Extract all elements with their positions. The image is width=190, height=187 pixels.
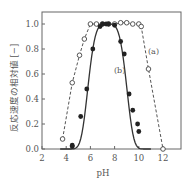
open-circle-point	[70, 80, 75, 85]
filled-circle-point	[122, 52, 127, 57]
open-circle-point	[82, 37, 87, 42]
curves	[60, 23, 163, 149]
y-tick-label: 0.8	[25, 44, 39, 54]
plot-border	[42, 12, 181, 149]
open-circle-point	[60, 137, 65, 142]
x-tick-label: 4	[63, 153, 68, 163]
filled-circle-point	[118, 39, 123, 44]
filled-circle-point	[78, 114, 83, 119]
open-circle-point	[124, 20, 129, 25]
plot-frame	[42, 12, 181, 149]
filled-circle-point	[135, 122, 140, 127]
x-tick-label: 8	[112, 153, 117, 163]
filled-circle-point	[127, 92, 132, 97]
x-tick-label: 2	[39, 153, 44, 163]
filled-circle-point	[130, 108, 135, 113]
open-circle-point	[161, 147, 166, 152]
filled-circle-point	[136, 129, 141, 134]
open-circle-point	[88, 22, 93, 27]
y-tick-label: 0.4	[25, 94, 39, 104]
x-tick-label: 10	[133, 153, 144, 163]
series-a-label: (a)	[148, 47, 159, 56]
open-circle-point	[118, 20, 123, 25]
y-axis-label: 反応速度の相対値 [−]	[9, 44, 19, 132]
filled-circle-point	[90, 47, 95, 52]
y-tick-label: 0.6	[25, 69, 39, 79]
series-a-line	[63, 23, 163, 149]
axes: 246810120.00.20.40.60.81.0	[25, 19, 168, 163]
data-points	[60, 20, 165, 151]
open-circle-point	[77, 53, 82, 58]
y-tick-label: 1.0	[25, 19, 39, 29]
series-b-label: (b)	[114, 66, 125, 75]
filled-circle-point	[70, 144, 75, 149]
x-tick-label: 6	[88, 153, 93, 163]
open-circle-point	[139, 24, 144, 29]
filled-circle-point	[106, 22, 111, 27]
y-tick-label: 0.0	[25, 144, 39, 154]
filled-circle-point	[84, 87, 89, 92]
ph-activity-chart: 246810120.00.20.40.60.81.0 (a) (b) pH 反応…	[0, 0, 190, 187]
x-axis-label: pH	[97, 168, 110, 178]
open-circle-point	[146, 67, 151, 72]
y-tick-label: 0.2	[25, 119, 39, 129]
open-circle-point	[130, 22, 135, 27]
filled-circle-point	[112, 23, 117, 28]
x-tick-label: 12	[158, 153, 169, 163]
